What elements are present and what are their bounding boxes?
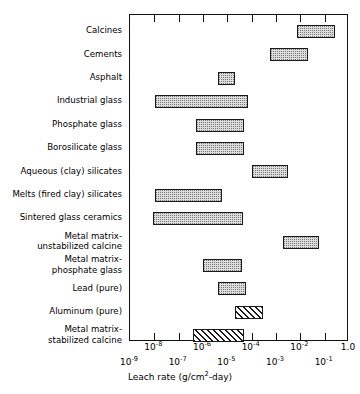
- range-bar: [155, 95, 248, 108]
- range-bar: [155, 189, 222, 202]
- x-tick-label: 10-5: [217, 357, 235, 367]
- category-label: Cements: [84, 49, 122, 60]
- category-label: Melts (fired clay) silicates: [12, 189, 122, 200]
- x-axis-tick-labels: 10-910-810-710-610-510-410-310-210-11.0: [0, 341, 360, 371]
- category-label-column: CalcinesCementsAsphaltIndustrial glassPh…: [0, 14, 126, 341]
- range-bar: [196, 142, 245, 155]
- category-label: Lead (pure): [72, 283, 122, 294]
- category-label: Sintered glass ceramics: [20, 212, 122, 223]
- category-label: Aqueous (clay) silicates: [21, 166, 123, 177]
- x-tick-bottom: [276, 333, 277, 340]
- x-tick-label: 10-2: [290, 342, 308, 352]
- x-tick-top: [154, 15, 155, 22]
- range-bar: [270, 48, 308, 61]
- category-label: Aluminum (pure): [49, 306, 122, 317]
- x-tick-top: [325, 15, 326, 22]
- leach-rate-chart: CalcinesCementsAsphaltIndustrial glassPh…: [0, 0, 360, 394]
- range-bar: [252, 165, 288, 178]
- range-bar: [283, 236, 319, 249]
- category-label: Metal matrix- unstabilized calcine: [37, 231, 122, 252]
- x-tick-top: [276, 15, 277, 22]
- x-tick-bottom: [325, 333, 326, 340]
- x-tick-label: 10-6: [193, 342, 211, 352]
- x-tick-bottom: [154, 333, 155, 340]
- plot-area: [129, 14, 348, 341]
- x-tick-label: 1.0: [341, 342, 355, 352]
- x-tick-label: 10-9: [120, 357, 138, 367]
- x-tick-top: [227, 15, 228, 22]
- category-label: Calcines: [86, 25, 122, 36]
- x-axis-title-text: Leach rate (g/cm2-day): [128, 372, 232, 382]
- range-bar: [203, 259, 242, 272]
- range-bar: [196, 119, 245, 132]
- category-label: Industrial glass: [57, 95, 122, 106]
- category-label: Metal matrix- phosphate glass: [52, 254, 122, 275]
- category-label: Phosphate glass: [52, 119, 122, 130]
- x-tick-top: [179, 15, 180, 22]
- range-bar: [218, 282, 247, 295]
- range-bar: [218, 72, 235, 85]
- x-tick-label: 10-7: [169, 357, 187, 367]
- range-bar: [297, 25, 334, 38]
- x-tick-label: 10-4: [242, 342, 260, 352]
- x-tick-top: [203, 15, 204, 22]
- range-bar: [153, 212, 243, 225]
- x-tick-bottom: [179, 333, 180, 340]
- x-tick-label: 10-3: [266, 357, 284, 367]
- x-tick-bottom: [300, 333, 301, 340]
- x-tick-label: 10-1: [315, 357, 333, 367]
- x-tick-top: [300, 15, 301, 22]
- x-tick-top: [252, 15, 253, 22]
- x-tick-bottom: [252, 333, 253, 340]
- category-label: Borosilicate glass: [47, 142, 122, 153]
- category-label: Asphalt: [90, 72, 122, 83]
- range-bar: [235, 306, 264, 319]
- x-axis-title: Leach rate (g/cm2-day): [0, 372, 360, 382]
- x-tick-label: 10-8: [144, 342, 162, 352]
